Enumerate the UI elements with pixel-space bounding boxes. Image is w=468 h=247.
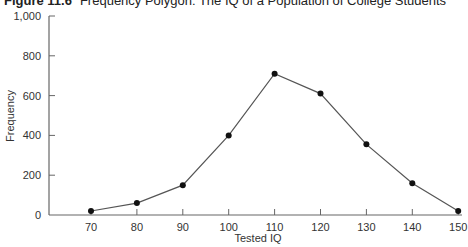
y-tick-label: 200 [23, 169, 41, 181]
data-point-marker [134, 200, 140, 206]
y-tick-label: 0 [35, 209, 41, 221]
y-tick-label: 800 [23, 50, 41, 62]
x-tick-label: 120 [311, 221, 329, 233]
data-point-marker [409, 180, 415, 186]
axes [49, 16, 462, 215]
y-tick-label: 400 [23, 129, 41, 141]
x-tick-label: 90 [177, 221, 189, 233]
data-point-marker [226, 132, 232, 138]
y-axis-label: Frequency [4, 90, 16, 142]
data-point-marker [318, 91, 324, 97]
data-point-marker [455, 208, 461, 214]
data-series [88, 71, 461, 214]
data-point-marker [363, 141, 369, 147]
y-tick-label: 600 [23, 90, 41, 102]
x-tick-label: 140 [403, 221, 421, 233]
x-tick-label: 80 [131, 221, 143, 233]
data-point-marker [180, 182, 186, 188]
y-tick-label: 1,000 [13, 10, 41, 22]
data-point-marker [272, 71, 278, 77]
x-tick-label: 70 [85, 221, 97, 233]
x-tick-label: 150 [449, 221, 467, 233]
x-tick-label: 130 [357, 221, 375, 233]
x-axis-ticks: 708090100110120130140150 [85, 209, 468, 233]
data-point-marker [88, 208, 94, 214]
x-axis-label: Tested IQ [234, 232, 282, 244]
frequency-polygon-chart: 02004006008001,000 708090100110120130140… [0, 0, 468, 247]
frequency-line [91, 74, 458, 211]
